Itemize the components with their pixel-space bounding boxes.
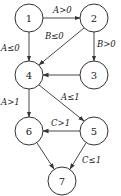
node-3: 3 bbox=[80, 61, 108, 89]
node-1: 1 bbox=[15, 4, 43, 32]
edge-4-5 bbox=[39, 85, 84, 121]
svg-text:6: 6 bbox=[26, 126, 32, 137]
svg-text:3: 3 bbox=[91, 70, 97, 81]
svg-text:2: 2 bbox=[91, 13, 97, 24]
edge-label-5-6: C>1 bbox=[51, 118, 70, 128]
edge-label-2-3: B>0 bbox=[96, 39, 116, 49]
flow-graph: A>0 A≤0 B≤0 B>0 A>1 A≤1 C>1 C≤1 1 2 3 4 … bbox=[0, 0, 121, 196]
svg-text:7: 7 bbox=[59, 176, 65, 187]
edge-label-4-5: A≤1 bbox=[60, 92, 80, 102]
node-4: 4 bbox=[15, 61, 43, 89]
edge-label-2-4: B≤0 bbox=[44, 31, 64, 41]
svg-text:5: 5 bbox=[91, 126, 97, 137]
node-5: 5 bbox=[80, 117, 108, 145]
edge-6-7 bbox=[37, 143, 54, 169]
edge-label-5-7: C≤1 bbox=[82, 155, 101, 165]
edge-label-1-4: A≤0 bbox=[0, 43, 20, 53]
node-7: 7 bbox=[48, 167, 76, 195]
edge-label-1-2: A>0 bbox=[52, 5, 72, 15]
node-6: 6 bbox=[15, 117, 43, 145]
svg-text:4: 4 bbox=[26, 70, 32, 81]
edge-label-4-6: A>1 bbox=[0, 97, 20, 107]
svg-text:1: 1 bbox=[26, 13, 32, 24]
node-2: 2 bbox=[80, 4, 108, 32]
